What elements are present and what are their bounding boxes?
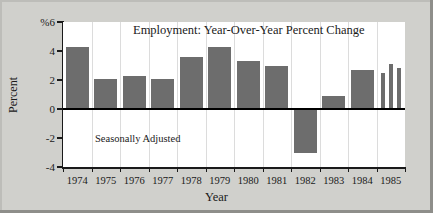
x-tick-label: 1975 (95, 175, 116, 186)
chart-annotation: Seasonally Adjusted (95, 133, 180, 144)
x-tick-label: 1985 (380, 175, 401, 186)
y-tick-label: 4 (50, 46, 56, 57)
x-tick-label: 1976 (124, 175, 145, 186)
y-tick-label: -2 (46, 133, 55, 144)
gridline-vertical (291, 22, 292, 167)
y-tick-label: 0 (50, 104, 56, 115)
x-tick-label: 1982 (295, 175, 316, 186)
x-tick-label: 1981 (266, 175, 287, 186)
x-tick-mark (320, 167, 321, 172)
x-tick-mark (405, 167, 406, 172)
bar (208, 47, 231, 109)
y-tick-label: 2 (50, 75, 56, 86)
x-tick-label: 1977 (152, 175, 173, 186)
gridline-vertical (377, 22, 378, 167)
gridline-vertical (348, 22, 349, 167)
bar (180, 57, 203, 109)
bar (123, 76, 146, 109)
bar-sub-period (397, 68, 401, 109)
frame-top-edge (0, 0, 433, 2)
x-tick-label: 1980 (238, 175, 259, 186)
y-tick-label: -4 (46, 162, 55, 173)
bar (294, 109, 317, 153)
x-tick-mark (377, 167, 378, 172)
gridline-vertical (149, 22, 150, 167)
bar-sub-period (389, 64, 393, 109)
chart-figure: Percent %6420-2-4 1974197519761977197819… (0, 0, 433, 213)
x-tick-mark (120, 167, 121, 172)
x-tick-label: 1974 (67, 175, 88, 186)
bar (237, 61, 260, 109)
gridline-vertical (234, 22, 235, 167)
bar (151, 79, 174, 109)
y-tick-mark (57, 50, 63, 52)
plot-area: %6420-2-4 (63, 22, 405, 167)
x-tick-mark (149, 167, 150, 172)
x-tick-label: 1979 (209, 175, 230, 186)
y-tick-mark (57, 79, 63, 81)
x-tick-mark (63, 167, 64, 172)
y-tick-label: %6 (40, 17, 55, 28)
x-tick-mark (291, 167, 292, 172)
gridline-vertical (263, 22, 264, 167)
bar (265, 66, 288, 110)
y-axis-title: Percent (6, 50, 22, 140)
y-tick-mark (57, 137, 63, 139)
gridline-vertical (206, 22, 207, 167)
x-tick-mark (206, 167, 207, 172)
x-tick-mark (348, 167, 349, 172)
frame-left-edge (0, 0, 2, 213)
gridline-vertical (92, 22, 93, 167)
y-tick-mark (57, 21, 63, 23)
bar (66, 47, 89, 109)
x-tick-label: 1983 (323, 175, 344, 186)
x-tick-label: 1984 (352, 175, 373, 186)
zero-baseline (63, 108, 405, 110)
frame-bottom-edge (0, 210, 433, 213)
gridline-vertical (177, 22, 178, 167)
bar (94, 79, 117, 109)
x-tick-mark (263, 167, 264, 172)
bar-sub-period (381, 73, 385, 109)
bar (351, 70, 374, 109)
x-axis-title: Year (0, 190, 433, 205)
x-tick-mark (177, 167, 178, 172)
x-tick-mark (234, 167, 235, 172)
gridline-vertical (320, 22, 321, 167)
x-tick-label: 1978 (181, 175, 202, 186)
chart-title: Employment: Year-Over-Year Percent Chang… (133, 23, 365, 38)
gridline-vertical (120, 22, 121, 167)
x-tick-mark (92, 167, 93, 172)
